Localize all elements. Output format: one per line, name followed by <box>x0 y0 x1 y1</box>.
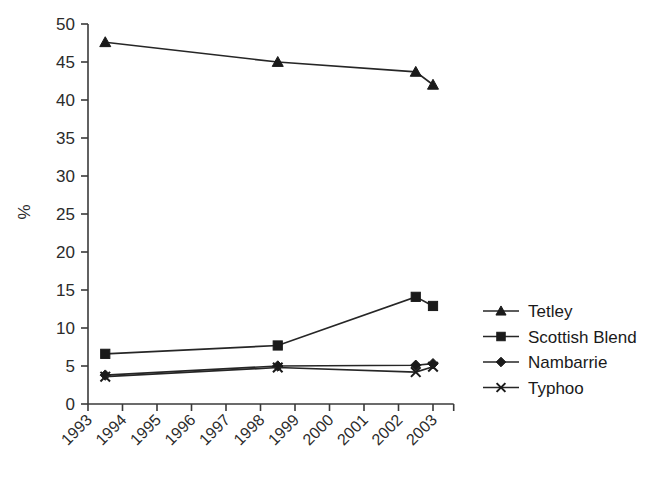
chart-canvas: 05101520253035404550 1993199419951996199… <box>0 0 655 480</box>
y-tick-label: 0 <box>66 395 75 414</box>
data-point-marker <box>101 349 110 358</box>
chart-background <box>0 0 655 480</box>
legend-label: Scottish Blend <box>528 328 637 347</box>
data-point-marker <box>411 292 420 301</box>
y-tick-label: 30 <box>56 167 75 186</box>
legend-marker-square-icon <box>497 332 505 340</box>
legend-label: Nambarrie <box>528 353 607 372</box>
y-tick-label: 40 <box>56 91 75 110</box>
y-axis-title: % <box>15 204 34 219</box>
y-tick-label: 5 <box>66 357 75 376</box>
y-tick-label: 25 <box>56 205 75 224</box>
legend-label: Typhoo <box>528 379 584 398</box>
y-axis-title-label: % <box>15 204 34 219</box>
y-tick-label: 50 <box>56 15 75 34</box>
y-tick-label: 20 <box>56 243 75 262</box>
y-tick-label: 15 <box>56 281 75 300</box>
data-point-marker <box>428 301 437 310</box>
y-tick-label: 35 <box>56 129 75 148</box>
legend-label: Tetley <box>528 302 573 321</box>
line-chart: 05101520253035404550 1993199419951996199… <box>0 0 655 480</box>
y-tick-label: 10 <box>56 319 75 338</box>
data-point-marker <box>273 341 282 350</box>
y-tick-label: 45 <box>56 53 75 72</box>
